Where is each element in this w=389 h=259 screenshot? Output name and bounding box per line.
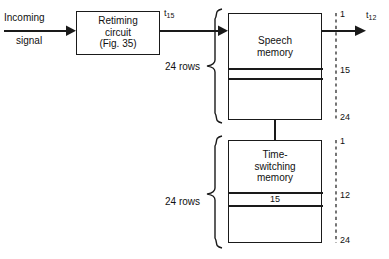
time-switching-memory-tick-1: 1 xyxy=(340,137,345,146)
time-switching-memory-scale xyxy=(0,0,389,259)
diagram-canvas: Incoming signal Retiming circuit (Fig. 3… xyxy=(0,0,389,259)
time-switching-memory-tick-24: 24 xyxy=(340,236,350,245)
time-switching-memory-tick-12: 12 xyxy=(340,191,350,200)
